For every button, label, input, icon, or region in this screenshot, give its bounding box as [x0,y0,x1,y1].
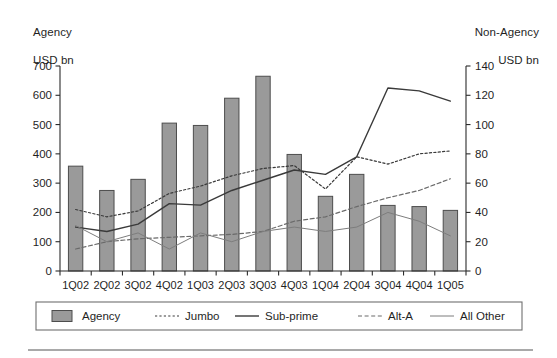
x-tick-label-2Q02: 2Q02 [93,279,120,291]
bar-series-agency [68,76,457,271]
y2-tick-label: 20 [475,236,488,248]
legend-label-all-other: All Other [460,310,505,322]
legend-label-alt-a: Alt-A [388,310,413,322]
y-tick-label: 600 [33,89,52,101]
x-tick-label-3Q04: 3Q04 [374,279,401,291]
y-tick-label: 100 [33,236,52,248]
y2-tick-label: 0 [475,265,481,277]
x-tick-label-4Q04: 4Q04 [406,279,433,291]
x-tick-label-1Q03: 1Q03 [187,279,214,291]
y-tick-label: 200 [33,206,52,218]
bar-1Q03 [193,125,207,271]
legend-item-jumbo: Jumbo [155,310,220,322]
x-tick-label-2Q04: 2Q04 [343,279,370,291]
y-tick-label: 0 [46,265,52,277]
bar-2Q03 [225,98,239,271]
x-tick-label-3Q02: 3Q02 [125,279,152,291]
x-tick-label-4Q03: 4Q03 [281,279,308,291]
y2-tick-label: 80 [475,148,488,160]
bar-1Q05 [443,210,457,271]
x-tick-label-1Q04: 1Q04 [312,279,339,291]
bar-4Q04 [412,207,426,271]
bar-2Q04 [350,174,364,271]
x-tick-label-1Q05: 1Q05 [437,279,464,291]
legend-item-agency: Agency [52,310,121,322]
legend-swatch-agency [52,311,72,322]
legend-item-alt-a: Alt-A [358,310,413,322]
x-tick-label-2Q03: 2Q03 [218,279,245,291]
bar-1Q04 [318,196,332,271]
x-tick-label-3Q03: 3Q03 [250,279,277,291]
x-tick-label-4Q02: 4Q02 [156,279,183,291]
legend-label-sub-prime: Sub-prime [265,310,318,322]
y-tick-label: 700 [33,60,52,72]
legend-label-jumbo: Jumbo [185,310,220,322]
chart-plot: 0100200300400500600700020406080100120140… [0,0,557,358]
y2-tick-label: 140 [475,60,494,72]
legend-item-all-other: All Other [430,310,505,322]
x-tick-label-1Q02: 1Q02 [62,279,89,291]
y2-tick-label: 60 [475,177,488,189]
bar-3Q03 [256,76,270,271]
legend-label-agency: Agency [82,310,121,322]
y-tick-label: 400 [33,148,52,160]
legend-item-sub-prime: Sub-prime [235,310,318,322]
y-tick-label: 500 [33,119,52,131]
y2-tick-label: 40 [475,206,488,218]
chart-legend: AgencyJumboSub-primeAlt-AAll Other [36,302,522,330]
y2-tick-label: 100 [475,119,494,131]
bar-1Q02 [68,166,82,271]
y-tick-label: 300 [33,177,52,189]
y2-tick-label: 120 [475,89,494,101]
chart-figure: Agency USD bn Non-Agency USD bn 01002003… [0,0,557,358]
